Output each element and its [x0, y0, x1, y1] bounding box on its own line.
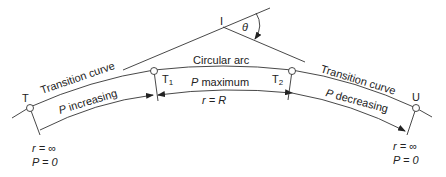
- right-p-zero: P = 0: [393, 154, 419, 166]
- right-r-infinity: r = ∞: [393, 140, 417, 152]
- label-theta: θ: [242, 21, 248, 33]
- label-t: T: [22, 92, 29, 104]
- transition-curve-diagram: T I θ T1 T2 U Circular arc Transition cu…: [0, 0, 446, 177]
- label-t2: T2: [272, 73, 284, 87]
- point-t: [27, 105, 34, 112]
- point-t2: [289, 68, 296, 75]
- left-r-infinity: r = ∞: [32, 142, 56, 154]
- t-radial-line: [30, 108, 40, 135]
- label-r-equals-R: r = R: [202, 94, 226, 106]
- t2-radial-line: [288, 71, 292, 100]
- u-radial-line: [407, 108, 416, 135]
- label-i: I: [220, 15, 223, 27]
- point-t1: [151, 68, 158, 75]
- label-p-maximum: P maximum: [191, 76, 249, 88]
- deflection-angle-arc: [255, 13, 260, 39]
- label-u: U: [412, 91, 420, 103]
- t1-radial-line: [154, 71, 158, 101]
- point-u: [413, 105, 420, 112]
- label-t1: T1: [162, 73, 174, 87]
- left-p-zero: P = 0: [32, 156, 58, 168]
- label-circular-arc: Circular arc: [193, 54, 250, 66]
- label-p-increasing: P increasing: [57, 87, 118, 116]
